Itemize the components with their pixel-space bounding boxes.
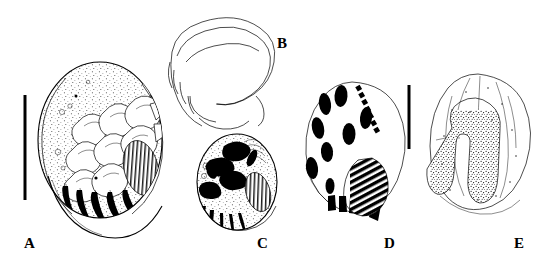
panel-label-b: B bbox=[277, 36, 287, 51]
panel-label-e: E bbox=[514, 236, 524, 251]
panel-e-artwork bbox=[427, 74, 531, 220]
panel-c-artwork bbox=[196, 134, 277, 242]
panel-e-horseshoe bbox=[427, 98, 520, 220]
panel-d-artwork bbox=[305, 82, 410, 225]
panel-b-artwork bbox=[168, 18, 274, 129]
plate-artwork bbox=[0, 0, 552, 266]
illustration-plate: A B C D E bbox=[0, 0, 552, 266]
panel-a-artwork bbox=[38, 62, 182, 238]
panel-label-a: A bbox=[24, 236, 35, 251]
panel-label-c: C bbox=[257, 236, 268, 251]
panel-label-d: D bbox=[384, 236, 395, 251]
